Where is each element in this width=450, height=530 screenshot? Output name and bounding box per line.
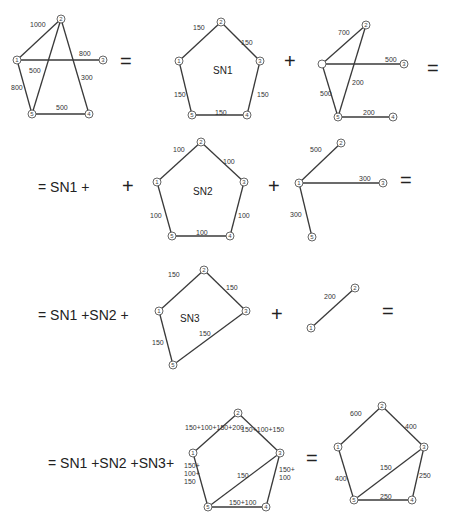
edge-weight-label: 150 [174, 91, 186, 98]
equation-operator: + [271, 303, 283, 325]
node-1: 1 [295, 179, 303, 187]
edge-weight-label: 100 [223, 158, 235, 165]
edge-5-1 [159, 311, 173, 365]
edge-weight-label: 150 [193, 24, 205, 31]
edge-weight-label: 100 [196, 229, 208, 236]
edge-weight-label: 100 [150, 212, 162, 219]
edge-weight-label: 150 [380, 464, 392, 471]
node-3: 3 [276, 449, 284, 457]
edge-weight-label: 250 [380, 493, 392, 500]
node-5: 5 [308, 233, 316, 241]
node-5: 5 [204, 503, 212, 511]
edge-weight-label: 150 [152, 339, 164, 346]
node-3: 3 [240, 178, 248, 186]
node-1 [318, 60, 326, 68]
node-1: 1 [155, 307, 163, 315]
edge-5-1 [157, 182, 172, 236]
graph-original: 100080050030080050012345 [11, 15, 107, 118]
edge-weight-label: 500 [385, 56, 397, 63]
edge-1-5 [299, 183, 312, 237]
edge-weight-label: 500 [320, 90, 332, 97]
node-4: 4 [262, 503, 270, 511]
edge-3-4 [247, 61, 260, 115]
edge-weight-label: 150 [241, 39, 253, 46]
edge-weight-label: 150 [226, 284, 238, 291]
node-1: 1 [13, 56, 21, 64]
node-5: 5 [168, 232, 176, 240]
edge-5-1 [338, 447, 354, 500]
node-2: 2 [362, 21, 370, 29]
edge-weight-label: 800 [11, 84, 23, 91]
edge-weight-label: 150 [168, 271, 180, 278]
node-1: 1 [307, 324, 315, 332]
edge-3-4 [266, 453, 280, 507]
edge-2-3 [238, 413, 280, 453]
edge-weight-label: 150 [215, 109, 227, 116]
node-2: 2 [234, 409, 242, 417]
edge-weight-label: 400 [405, 423, 417, 430]
edge-weight-label: 100 [238, 212, 250, 219]
edge-weight-label: 1000 [30, 21, 46, 28]
equation-operator: = SN1 +SN2 + [38, 307, 129, 323]
equation-operator: = [306, 447, 318, 469]
edge-weight-label: 150 [237, 472, 249, 479]
edge-weight-label: 200 [352, 79, 364, 86]
subnetwork-label: SN3 [180, 313, 200, 324]
equation-operator: = SN1 +SN2 +SN3+ [48, 455, 174, 471]
node-5: 5 [350, 496, 358, 504]
node-4: 4 [389, 113, 397, 121]
edge-weight-label: 300 [359, 175, 371, 182]
edge-weight-label: 500 [29, 67, 41, 74]
graph-result: 60040025025040015012345 [334, 402, 431, 504]
edge-5-1 [179, 61, 192, 115]
node-2: 2 [351, 284, 359, 292]
node-1: 1 [175, 57, 183, 65]
edge-weight-label: 150 [257, 91, 269, 98]
edge-weight-label: 200 [363, 109, 375, 116]
node-5: 5 [188, 111, 196, 119]
edge-2-3 [382, 406, 424, 447]
graph-decomposition-diagram: 1000800500300800500123451501501501501501… [0, 0, 450, 530]
node-3: 3 [400, 60, 408, 68]
node-3: 3 [420, 443, 428, 451]
node-4: 4 [226, 232, 234, 240]
edge-weight-label: 300 [81, 74, 93, 81]
edge-weight-label: 250 [419, 472, 431, 479]
graph-rem3: 20012 [307, 284, 359, 332]
edge-weight-label: 500 [310, 146, 322, 153]
node-circle [318, 60, 326, 68]
graph-rem1: 7005002005002002345 [318, 21, 408, 121]
equation-operator: = [427, 57, 439, 79]
node-2: 2 [200, 266, 208, 274]
edge-2-4 [61, 19, 89, 114]
node-3: 3 [242, 307, 250, 315]
equation-operator: + [284, 50, 296, 72]
edge-weight-label: 600 [350, 410, 362, 417]
equation-operator: + [268, 175, 280, 197]
edge-weight-label: 150+100+150+200 [185, 424, 244, 431]
equation-operator: = [382, 300, 394, 322]
edge-2-3 [204, 270, 246, 311]
edge-1-2 [159, 270, 204, 311]
edge-weight-label: 500 [56, 104, 68, 111]
node-2: 2 [197, 138, 205, 146]
equation-operator: = SN1 + [38, 179, 89, 195]
node-5: 5 [169, 361, 177, 369]
node-2: 2 [337, 139, 345, 147]
node-1: 1 [189, 449, 197, 457]
node-2: 2 [57, 15, 65, 23]
equation-operator: = [400, 169, 412, 191]
edge-weight-label: 150+100+150 [184, 462, 200, 485]
edge-weight-label: 300 [290, 211, 302, 218]
node-5: 5 [334, 113, 342, 121]
edge-weight-label: 400 [335, 475, 347, 482]
node-4: 4 [408, 496, 416, 504]
node-4: 4 [243, 111, 251, 119]
subnetwork-label: SN2 [193, 186, 213, 197]
node-1: 1 [153, 178, 161, 186]
edge-3-4 [230, 182, 244, 236]
graphs-layer: 1000800500300800500123451501501501501501… [11, 15, 431, 511]
subnetwork-label: SN1 [213, 65, 233, 76]
node-4: 4 [85, 110, 93, 118]
graph-rem2: 5003003001235 [290, 139, 387, 241]
